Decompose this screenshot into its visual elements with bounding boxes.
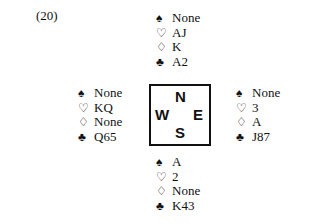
heart-icon: ♡ <box>236 101 252 116</box>
club-icon: ♣ <box>156 55 172 70</box>
north-diamonds: K <box>172 40 181 55</box>
south-hearts-row: ♡2 <box>156 170 200 185</box>
heart-icon: ♡ <box>78 101 94 116</box>
south-clubs-row: ♣K43 <box>156 199 200 214</box>
diamond-icon: ♢ <box>236 115 252 130</box>
south-spades: A <box>172 155 181 170</box>
problem-number: (20) <box>36 8 58 24</box>
west-diamonds-row: ♢None <box>78 115 122 130</box>
compass-west: W <box>155 106 169 123</box>
north-spades: None <box>172 11 200 26</box>
heart-icon: ♡ <box>156 170 172 185</box>
east-hearts-row: ♡3 <box>236 101 280 116</box>
east-spades: None <box>252 86 280 101</box>
spade-icon: ♠ <box>78 86 94 101</box>
east-hearts: 3 <box>252 101 259 116</box>
west-hearts-row: ♡KQ <box>78 101 122 116</box>
compass-north: N <box>175 88 186 105</box>
spade-icon: ♠ <box>236 86 252 101</box>
north-clubs: A2 <box>172 55 188 70</box>
west-hand: ♠None ♡KQ ♢None ♣Q65 <box>78 86 122 144</box>
diamond-icon: ♢ <box>156 184 172 199</box>
north-hand: ♠None ♡AJ ♢K ♣A2 <box>156 11 200 69</box>
north-hearts: AJ <box>172 26 186 41</box>
north-hearts-row: ♡AJ <box>156 26 200 41</box>
east-diamonds: A <box>252 115 261 130</box>
north-diamonds-row: ♢K <box>156 40 200 55</box>
south-clubs: K43 <box>172 199 194 214</box>
club-icon: ♣ <box>78 130 94 145</box>
west-clubs: Q65 <box>94 130 116 145</box>
east-spades-row: ♠None <box>236 86 280 101</box>
compass-east: E <box>193 106 203 123</box>
east-clubs-row: ♣J87 <box>236 130 280 145</box>
west-hearts: KQ <box>94 101 113 116</box>
west-spades-row: ♠None <box>78 86 122 101</box>
south-spades-row: ♠A <box>156 155 200 170</box>
south-hearts: 2 <box>172 170 179 185</box>
west-clubs-row: ♣Q65 <box>78 130 122 145</box>
north-spades-row: ♠None <box>156 11 200 26</box>
west-spades: None <box>94 86 122 101</box>
club-icon: ♣ <box>236 130 252 145</box>
south-hand: ♠A ♡2 ♢None ♣K43 <box>156 155 200 213</box>
diamond-icon: ♢ <box>156 40 172 55</box>
compass-box: N W E S <box>149 84 211 146</box>
south-diamonds-row: ♢None <box>156 184 200 199</box>
compass-south: S <box>175 124 185 141</box>
club-icon: ♣ <box>156 199 172 214</box>
north-clubs-row: ♣A2 <box>156 55 200 70</box>
diamond-icon: ♢ <box>78 115 94 130</box>
west-diamonds: None <box>94 115 122 130</box>
south-diamonds: None <box>172 184 200 199</box>
east-hand: ♠None ♡3 ♢A ♣J87 <box>236 86 280 144</box>
east-diamonds-row: ♢A <box>236 115 280 130</box>
spade-icon: ♠ <box>156 155 172 170</box>
spade-icon: ♠ <box>156 11 172 26</box>
east-clubs: J87 <box>252 130 270 145</box>
heart-icon: ♡ <box>156 26 172 41</box>
